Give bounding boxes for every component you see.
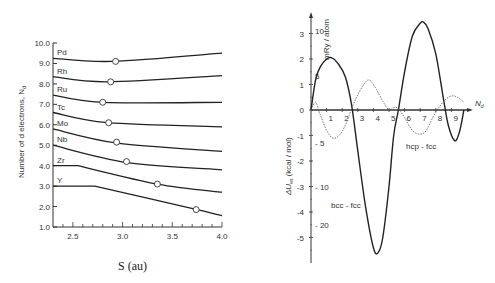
y-tick-label: -3 <box>297 183 305 192</box>
marker-y <box>193 207 199 213</box>
curve-zr <box>53 166 222 193</box>
left-y-ticks: 10.09.08.07.06.05.04.03.02.01.0 <box>34 39 57 232</box>
annotation-hcp-fcc: hcp - fcc <box>406 142 436 151</box>
element-label-pd: Pd <box>57 48 67 57</box>
y-tick-label: 4.0 <box>39 162 51 171</box>
secondary-y-tick-label: - 5 <box>315 139 325 148</box>
x-tick-label: 5 <box>391 114 396 123</box>
y-tick-label: 6.0 <box>39 121 51 130</box>
curve-tc <box>53 113 222 127</box>
x-tick-label: 7 <box>422 114 427 123</box>
marker-rh <box>108 79 114 85</box>
x-tick-label: 4.0 <box>216 232 228 241</box>
x-tick-label: 3.5 <box>167 232 179 241</box>
x-tick-label: 2.5 <box>67 232 79 241</box>
marker-zr <box>154 181 160 187</box>
x-tick-label: 9 <box>453 114 458 123</box>
element-label-rh: Rh <box>57 67 67 76</box>
element-label-zr: Zr <box>57 156 65 165</box>
y-tick-label: 5.0 <box>39 141 51 150</box>
left-chart: 10.09.08.07.06.05.04.03.02.01.0 2.53.03.… <box>17 39 228 273</box>
element-label-y: Y <box>57 176 63 185</box>
x-tick-label: 8 <box>438 114 443 123</box>
marker-tc <box>106 120 112 126</box>
marker-pd <box>113 58 119 64</box>
figure: 10.09.08.07.06.05.04.03.02.01.0 2.53.03.… <box>0 0 495 283</box>
y-tick-label: 10.0 <box>34 39 50 48</box>
x-axis-arrow-icon <box>467 108 473 112</box>
marker-nb <box>124 159 130 165</box>
marker-mo <box>114 139 120 145</box>
curve-bcc-fcc <box>311 21 464 254</box>
right-secondary-y-label: mRy / atom <box>322 19 331 60</box>
y-tick-label: 1.0 <box>39 223 51 232</box>
y-tick-label: -1 <box>297 132 305 141</box>
element-label-ru: Ru <box>57 85 67 94</box>
element-label-nb: Nb <box>57 135 68 144</box>
curve-rh <box>53 76 222 82</box>
curve-mo <box>53 129 222 152</box>
y-tick-label: 3.0 <box>39 182 51 191</box>
left-y-axis-label: Number of d electrons, Nd <box>17 86 27 178</box>
y-tick-label: 0 <box>300 106 305 115</box>
annotation-bcc-fcc: bcc - fcc <box>331 201 361 210</box>
right-curves <box>311 21 464 254</box>
left-x-axis-label: S (au) <box>118 259 147 273</box>
curve-ru <box>53 95 222 103</box>
x-tick-label: 4 <box>375 114 380 123</box>
y-tick-label: 3 <box>300 30 305 39</box>
y-tick-label: 7.0 <box>39 100 51 109</box>
y-tick-label: 8.0 <box>39 80 51 89</box>
secondary-y-tick-label: - 20 <box>315 221 329 230</box>
right-x-axis-label: Nd <box>475 99 484 109</box>
y-tick-label: -4 <box>297 208 305 217</box>
y-axis-arrow-icon <box>309 12 313 18</box>
curve-hcp-fcc <box>311 80 464 138</box>
x-tick-label: 3.0 <box>117 232 129 241</box>
x-tick-label: 1 <box>329 114 334 123</box>
secondary-y-tick-label: - 10 <box>315 183 329 192</box>
y-tick-label: 2 <box>300 55 305 64</box>
marker-ru <box>100 99 106 105</box>
y-tick-label: 1 <box>300 81 305 90</box>
x-tick-label: 6 <box>407 114 412 123</box>
right-y-axis-label: ΔUes (kcal / mol) <box>284 137 294 196</box>
curve-pd <box>53 53 222 61</box>
y-tick-label: -5 <box>297 234 305 243</box>
right-chart: 3210-1-2-3-4-5105- 5- 10- 20 123456789 Δ… <box>284 12 484 263</box>
element-label-mo: Mo <box>57 119 69 128</box>
y-tick-label: -2 <box>297 157 305 166</box>
y-tick-label: 2.0 <box>39 203 51 212</box>
y-tick-label: 9.0 <box>39 59 51 68</box>
left-curves: PdRhRuTcMoNbZrY <box>53 48 222 215</box>
left-x-ticks: 2.53.03.54.0 <box>63 222 228 241</box>
x-tick-label: 3 <box>360 114 365 123</box>
element-label-tc: Tc <box>57 103 65 112</box>
